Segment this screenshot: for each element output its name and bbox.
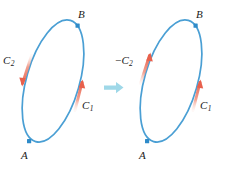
right-arc-c1-label: C1 — [200, 100, 211, 111]
right-point-b-marker — [194, 24, 198, 28]
left-point-a-label: A — [21, 150, 28, 161]
right-curve-group — [128, 13, 214, 149]
right-arc-c2-subscript: 2 — [129, 59, 133, 68]
transition-arrow-shape — [104, 82, 124, 93]
figure-canvas: B A C2 C1 B A −C2 C1 — [0, 0, 227, 169]
left-point-a-marker — [27, 139, 31, 143]
right-point-a-marker — [145, 139, 149, 143]
right-arc-c2-arrow — [141, 53, 153, 84]
right-point-b-label: B — [196, 9, 203, 20]
left-point-b-label: B — [78, 9, 85, 20]
left-point-b-marker — [76, 24, 80, 28]
left-arc-c2-label: C2 — [3, 55, 14, 66]
right-arc-c2-label: −C2 — [115, 55, 133, 66]
left-arc-c1-subscript: 1 — [90, 104, 94, 113]
left-curve-group — [10, 13, 96, 149]
left-arc-c2-subscript: 2 — [11, 59, 15, 68]
diagram-svg — [0, 0, 227, 169]
left-arc-c1-label: C1 — [82, 100, 93, 111]
right-point-a-label: A — [139, 150, 146, 161]
right-arc-c1-subscript: 1 — [208, 104, 212, 113]
